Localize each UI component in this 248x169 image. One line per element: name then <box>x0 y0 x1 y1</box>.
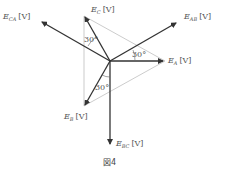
angle-label-a: 30° <box>132 51 146 59</box>
label-e-bc: EBC[V] <box>116 140 143 149</box>
angle-label-c: 30° <box>84 36 98 44</box>
angle-arc-b <box>102 75 110 77</box>
label-e-b: EB[V] <box>64 113 88 122</box>
label-e-ca: ECA[V] <box>3 13 30 22</box>
label-e-a: EA[V] <box>168 57 192 66</box>
figure-caption: 図4 <box>103 156 116 167</box>
label-e-c: EC[V] <box>91 6 115 15</box>
label-e-ab: EAB[V] <box>184 13 211 22</box>
phasor-e-ca <box>42 22 110 61</box>
angle-label-b: 30° <box>95 84 109 92</box>
